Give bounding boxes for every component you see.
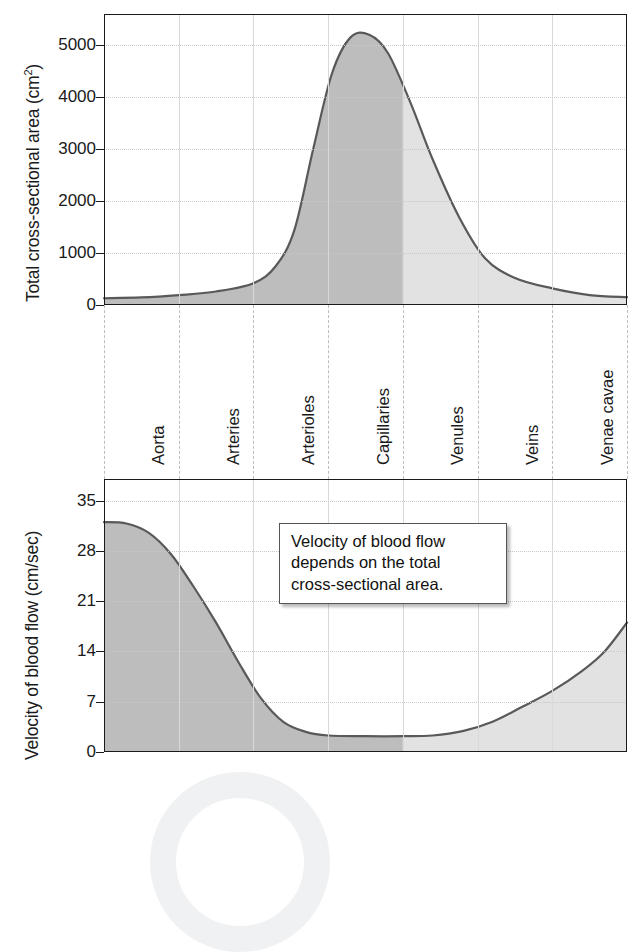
y-axis-tickmark [96, 651, 104, 652]
category-label-venules: Venules [448, 406, 467, 465]
circular-watermark [150, 772, 330, 952]
category-divider [253, 305, 254, 479]
y-axis-tickmark [96, 253, 104, 254]
category-divider [104, 305, 105, 479]
category-label-venae-cavae: Venae cavae [598, 370, 617, 465]
plot-frame-velocity [104, 479, 627, 752]
plot-frame-area [104, 14, 627, 305]
y-axis-tickmark [96, 97, 104, 98]
category-label-veins: Veins [523, 425, 542, 465]
category-divider [328, 305, 329, 479]
y-axis-tickmark [96, 501, 104, 502]
y-axis-tickmark [96, 551, 104, 552]
chart-velocity-of-blood-flow: Velocity of blood flow (cm/sec) 07142128… [0, 470, 631, 760]
category-label-capillaries: Capillaries [374, 388, 393, 465]
callout-box: Velocity of blood flow depends on the to… [279, 523, 507, 604]
category-divider [179, 305, 180, 479]
y-axis-tickmark [96, 752, 104, 753]
y-axis-tickmark [96, 601, 104, 602]
category-divider [552, 305, 553, 479]
y-axis-tickmark [96, 149, 104, 150]
category-label-arteries: Arteries [224, 408, 243, 465]
category-label-aorta: Aorta [149, 426, 168, 465]
y-axis-tickmark [96, 45, 104, 46]
category-band: AortaArteriesArteriolesCapillariesVenule… [0, 305, 631, 479]
category-divider [403, 305, 404, 479]
chart-total-cross-sectional-area: Total cross-sectional area (cm2) 0100020… [0, 0, 631, 310]
y-axis-tickmark [96, 201, 104, 202]
callout-line-2: depends on the total [291, 552, 496, 573]
y-axis-tickmark [96, 702, 104, 703]
category-label-arterioles: Arterioles [299, 395, 318, 465]
callout-line-3: cross-sectional area. [291, 574, 496, 595]
category-divider [478, 305, 479, 479]
callout-line-1: Velocity of blood flow [291, 531, 496, 552]
category-divider [627, 305, 628, 479]
